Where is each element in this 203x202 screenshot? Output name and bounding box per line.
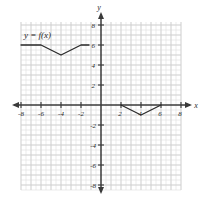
x-tick-label: 6 (158, 110, 162, 118)
y-tick-label: -4 (90, 142, 96, 150)
x-tick-label: -4 (58, 110, 64, 118)
y-axis-arrow-down (98, 187, 104, 194)
y-tick-label: 6 (92, 42, 96, 50)
y-tick-label: 4 (92, 62, 96, 70)
x-tick-label: 8 (178, 110, 182, 118)
y-tick-label: -6 (90, 162, 96, 170)
y-tick-label: 8 (92, 22, 96, 30)
y-tick-label: 2 (92, 82, 96, 90)
x-tick-label: -6 (38, 110, 44, 118)
y-tick-label: -2 (90, 122, 96, 130)
graph-figure: -8 -6 -4 -2 2 4 6 8 8 6 4 2 -2 -4 -6 -8 … (0, 0, 203, 202)
x-tick-label: -2 (78, 110, 84, 118)
x-tick-labels: -8 -6 -4 -2 2 4 6 8 (18, 110, 182, 118)
x-tick-label: -8 (18, 110, 24, 118)
y-axis-name: y (96, 3, 101, 12)
curve-label: y = f(x) (23, 30, 51, 40)
x-tick-label: 2 (118, 110, 122, 118)
x-axis-name: x (193, 101, 198, 110)
y-tick-label: -8 (90, 182, 96, 190)
x-axis-arrow-right (185, 102, 192, 108)
x-axis-arrow-left (12, 102, 19, 108)
coordinate-plane: -8 -6 -4 -2 2 4 6 8 8 6 4 2 -2 -4 -6 -8 … (0, 0, 203, 202)
y-axis-arrow-up (98, 12, 104, 19)
